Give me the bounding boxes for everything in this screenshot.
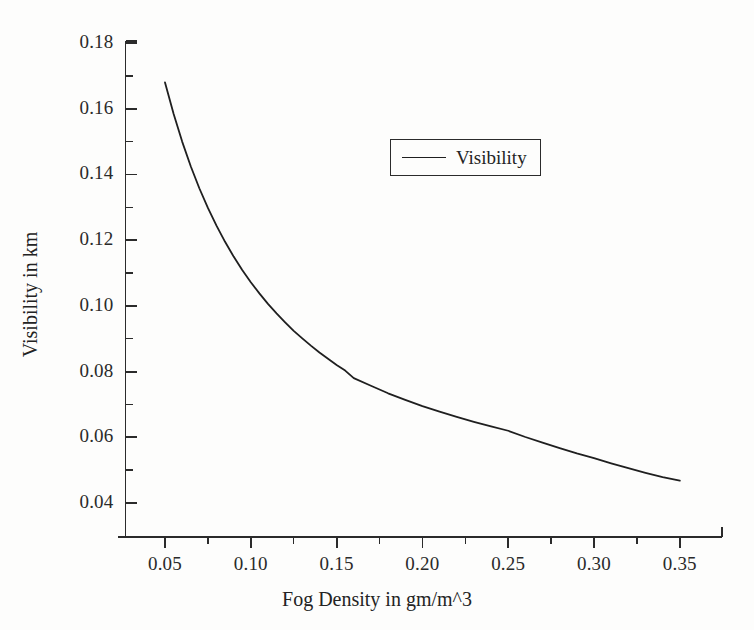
legend-entry-visibility[interactable]: Visibility bbox=[391, 140, 540, 175]
x-tick-label: 0.25 bbox=[482, 553, 534, 575]
y-axis-title-wrapper: Visibility in km bbox=[10, 180, 50, 410]
y-tick-label: 0.06 bbox=[46, 425, 114, 447]
chart-canvas: 0.050.100.150.200.250.300.35 0.040.060.0… bbox=[0, 0, 754, 630]
legend-line-swatch bbox=[402, 157, 446, 158]
y-tick-label: 0.18 bbox=[46, 31, 114, 53]
y-tick-label: 0.08 bbox=[46, 360, 114, 382]
x-axis-ticks bbox=[165, 537, 680, 548]
x-tick-label: 0.20 bbox=[396, 553, 448, 575]
x-tick-label: 0.15 bbox=[311, 553, 363, 575]
y-axis-title: Visibility in km bbox=[19, 180, 42, 410]
x-tick-label: 0.10 bbox=[225, 553, 277, 575]
x-tick-label: 0.05 bbox=[139, 553, 191, 575]
legend[interactable]: Visibility bbox=[390, 139, 541, 176]
y-tick-label: 0.14 bbox=[46, 162, 114, 184]
x-tick-label: 0.30 bbox=[568, 553, 620, 575]
y-tick-label: 0.16 bbox=[46, 97, 114, 119]
y-axis-ticks bbox=[126, 43, 137, 503]
y-tick-label: 0.04 bbox=[46, 491, 114, 513]
x-axis-title: Fog Density in gm/m^3 bbox=[0, 588, 754, 611]
legend-entry-label: Visibility bbox=[456, 147, 527, 169]
y-tick-label: 0.10 bbox=[46, 294, 114, 316]
y-tick-label: 0.12 bbox=[46, 228, 114, 250]
x-tick-label: 0.35 bbox=[654, 553, 706, 575]
axis-lines bbox=[118, 41, 723, 537]
